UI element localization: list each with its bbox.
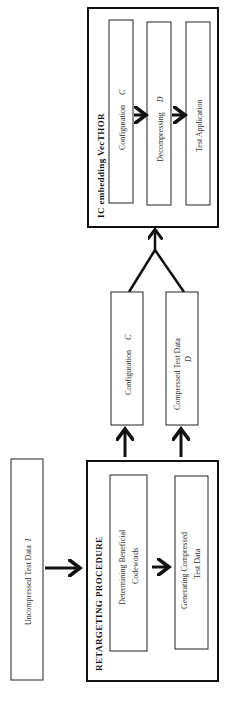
retargeting-block-title: RETARGETING PROCEDURE <box>94 537 104 672</box>
retargeting-block: RETARGETING PROCEDURE Determining Benefi… <box>87 461 218 681</box>
output-compressed-test-data <box>166 292 198 425</box>
stage-determining-codewords <box>110 475 147 651</box>
input: Uncompressed Test DataI <box>11 459 77 680</box>
outputs: ConfigurationC Compressed Test Data D <box>111 292 198 457</box>
output-compressed-test-data-symbol: D <box>184 356 193 363</box>
stage-generating-line1: Generating Compressed <box>180 532 189 609</box>
ic-stage-test-application-label: Test Application <box>195 99 204 152</box>
merge-connector <box>129 232 184 292</box>
stage-generating-line2: Test Data <box>193 548 202 579</box>
output-compressed-test-data-label: Compressed Test Data <box>173 338 182 410</box>
branch-line-left <box>129 250 155 292</box>
ic-block-title: IC embedding VecTHOR <box>96 113 106 218</box>
stage-determining-line1: Determining Beneficial <box>118 529 127 605</box>
branch-line-right <box>155 250 184 292</box>
stage-determining-line2: Codewords <box>131 548 140 584</box>
input-uncompressed-label: Uncompressed Test DataI <box>24 538 33 625</box>
ic-block: IC embedding VecTHOR ConfigurationC Deco… <box>88 8 218 227</box>
flow-diagram: IC embedding VecTHOR ConfigurationC Deco… <box>0 0 233 703</box>
